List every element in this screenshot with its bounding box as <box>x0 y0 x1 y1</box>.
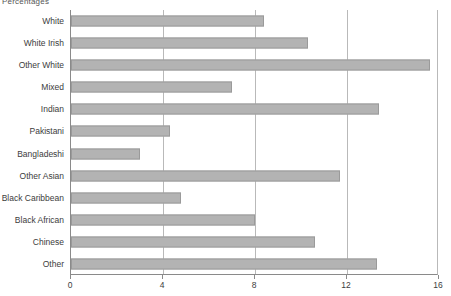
y-axis-label: Mixed <box>0 76 66 98</box>
bar[interactable] <box>71 38 308 49</box>
bar-row <box>71 165 437 187</box>
bar-row <box>71 10 437 32</box>
bar[interactable] <box>71 126 170 137</box>
x-axis-ticks: 0481216 <box>70 275 438 295</box>
y-axis-labels: WhiteWhite IrishOther WhiteMixedIndianPa… <box>0 10 66 275</box>
y-axis-label: Black African <box>0 209 66 231</box>
chart-title: Percentages <box>2 0 49 6</box>
x-tick-mark <box>162 275 163 279</box>
y-axis-label: Chinese <box>0 231 66 253</box>
x-tick-label: 12 <box>341 280 350 290</box>
y-axis-label: Other Asian <box>0 165 66 187</box>
y-axis-label: Pakistani <box>0 120 66 142</box>
y-axis-label: Other <box>0 253 66 275</box>
y-axis-label: Other White <box>0 54 66 76</box>
x-tick-mark <box>254 275 255 279</box>
bar[interactable] <box>71 82 232 93</box>
bar-row <box>71 98 437 120</box>
bar[interactable] <box>71 192 181 203</box>
bar-row <box>71 76 437 98</box>
y-axis-label: Black Caribbean <box>0 187 66 209</box>
x-tick-label: 0 <box>68 280 73 290</box>
bar-row <box>71 187 437 209</box>
bar-row <box>71 142 437 164</box>
bar[interactable] <box>71 258 377 269</box>
y-axis-label: White Irish <box>0 32 66 54</box>
bar[interactable] <box>71 214 255 225</box>
x-tick-label: 8 <box>252 280 257 290</box>
y-axis-label: White <box>0 10 66 32</box>
bar-row <box>71 120 437 142</box>
bar[interactable] <box>71 236 315 247</box>
bar-row <box>71 231 437 253</box>
bar[interactable] <box>71 170 340 181</box>
bar-chart: Percentages WhiteWhite IrishOther WhiteM… <box>0 0 451 296</box>
x-tick-mark <box>346 275 347 279</box>
bar[interactable] <box>71 104 379 115</box>
y-axis-label: Indian <box>0 98 66 120</box>
bar[interactable] <box>71 16 264 27</box>
plot-area <box>70 10 438 275</box>
y-axis-label: Bangladeshi <box>0 142 66 164</box>
bar[interactable] <box>71 60 430 71</box>
x-tick-mark <box>438 275 439 279</box>
x-tick-label: 4 <box>160 280 165 290</box>
bar-rows <box>71 10 437 274</box>
bar-row <box>71 253 437 275</box>
x-tick-label: 16 <box>433 280 442 290</box>
bar-row <box>71 32 437 54</box>
x-tick-mark <box>70 275 71 279</box>
bar-row <box>71 54 437 76</box>
bar-row <box>71 209 437 231</box>
bar[interactable] <box>71 148 140 159</box>
